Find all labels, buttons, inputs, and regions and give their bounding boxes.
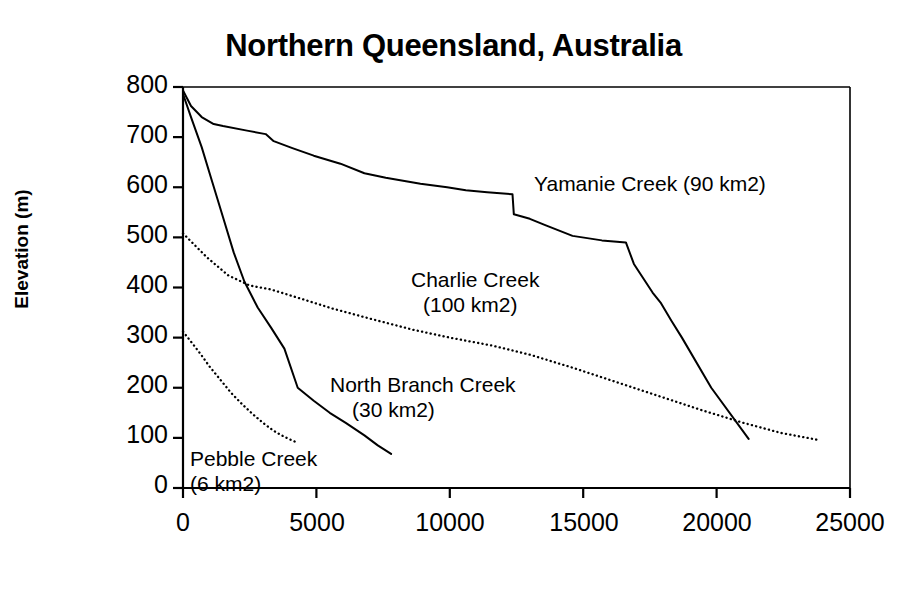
chart-figure: Northern Queensland, Australia Elevation… [0, 0, 907, 592]
y-axis-title: Elevation (m) [11, 169, 33, 329]
series-label-north-branch: North Branch Creek (30 km2) [330, 373, 516, 423]
series-line-pebble-creek [183, 332, 298, 443]
series-label-charlie-line1: Charlie Creek [411, 268, 539, 291]
x-tick-label-15000: 15000 [534, 508, 634, 537]
series-label-north-branch-line2: (30 km2) [330, 398, 516, 423]
series-label-yamanie-text: Yamanie Creek (90 km2) [534, 172, 766, 195]
series-label-pebble: Pebble Creek (6 km2) [190, 447, 317, 497]
series-label-pebble-line1: Pebble Creek [190, 447, 317, 470]
series-label-charlie-line2: (100 km2) [411, 293, 539, 318]
y-tick-label-400: 400 [80, 270, 168, 299]
y-tick-label-600: 600 [80, 170, 168, 199]
y-tick-label-0: 0 [80, 470, 168, 499]
y-tick-label-800: 800 [80, 70, 168, 99]
y-tick-label-500: 500 [80, 220, 168, 249]
y-tick-label-200: 200 [80, 370, 168, 399]
series-label-yamanie: Yamanie Creek (90 km2) [534, 172, 766, 197]
x-tick-label-25000: 25000 [800, 508, 900, 537]
y-tick-label-100: 100 [80, 420, 168, 449]
chart-title: Northern Queensland, Australia [0, 28, 907, 64]
series-label-north-branch-line1: North Branch Creek [330, 373, 516, 396]
series-label-pebble-line2: (6 km2) [190, 472, 317, 497]
y-tick-label-300: 300 [80, 320, 168, 349]
series-label-charlie: Charlie Creek (100 km2) [411, 268, 539, 318]
y-tick-label-700: 700 [80, 120, 168, 149]
x-tick-label-20000: 20000 [667, 508, 767, 537]
x-tick-label-5000: 5000 [267, 508, 367, 537]
x-tick-label-0: 0 [133, 508, 233, 537]
x-tick-label-10000: 10000 [400, 508, 500, 537]
